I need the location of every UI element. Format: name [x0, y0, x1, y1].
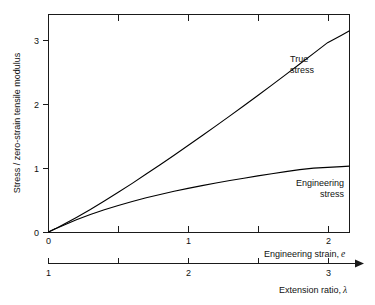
- y-axis-title: Stress / zero-strain tensile modulus: [12, 52, 22, 193]
- secondary-axis-arrow-icon: [355, 260, 364, 268]
- y-tick-label-2: 2: [34, 100, 39, 110]
- x-tick-label-0: 0: [46, 236, 51, 246]
- y-tick-labels: 0 1 2 3: [34, 36, 39, 238]
- engineering-stress-label-line2: stress: [320, 189, 345, 199]
- x-axis-title-text: Engineering strain,: [264, 249, 339, 259]
- secondary-tick-label-3: 3: [326, 268, 331, 278]
- curve-engineering-stress: [49, 166, 350, 232]
- x-tick-labels: 0 1 2: [46, 236, 331, 246]
- x-axis-title-symbol: e: [341, 249, 345, 259]
- secondary-axis-title-symbol: λ: [342, 285, 347, 295]
- secondary-tick-label-1: 1: [46, 268, 51, 278]
- figure-stress-strain-chart: 0 1 2 3 0 1 2 Stress / zero-strain tensi…: [0, 0, 375, 305]
- true-stress-label-line2: stress: [290, 65, 315, 75]
- y-tick-label-3: 3: [34, 36, 39, 46]
- secondary-axis-title-text: Extension ratio,: [279, 285, 341, 295]
- true-stress-label-line1: True: [290, 54, 308, 64]
- y-axis-ticks: [43, 41, 49, 233]
- series-label-true-stress: True stress: [290, 54, 315, 75]
- series-label-engineering-stress: Engineering stress: [296, 178, 345, 199]
- x-axis-ticks-bottom: [49, 226, 329, 232]
- secondary-tick-label-2: 2: [186, 268, 191, 278]
- secondary-axis-extension-ratio: 1 2 3 Extension ratio, λ: [46, 258, 364, 296]
- y-tick-label-0: 0: [34, 228, 39, 238]
- x-tick-label-2: 2: [326, 236, 331, 246]
- y-tick-label-1: 1: [34, 164, 39, 174]
- plot-frame: [49, 15, 350, 233]
- x-axis-title: Engineering strain, e: [264, 249, 345, 259]
- x-axis-ticks-top: [119, 15, 329, 21]
- x-tick-label-1: 1: [186, 236, 191, 246]
- engineering-stress-label-line1: Engineering: [296, 178, 344, 188]
- chart-canvas: 0 1 2 3 0 1 2 Stress / zero-strain tensi…: [0, 0, 375, 305]
